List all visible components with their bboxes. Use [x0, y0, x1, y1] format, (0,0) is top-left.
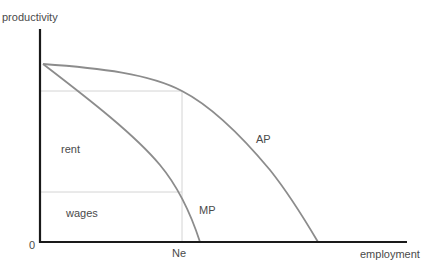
ap-curve-label: AP [256, 133, 271, 145]
y-axis-label: productivity [2, 11, 58, 23]
ne-label: Ne [172, 247, 186, 259]
productivity-diagram: productivity employment 0 Ne AP MP rent … [0, 0, 435, 269]
rent-region-label: rent [61, 143, 80, 155]
mp-curve-label: MP [199, 204, 216, 216]
wages-region-label: wages [65, 207, 98, 219]
x-axis-label: employment [360, 248, 420, 260]
origin-label: 0 [29, 239, 35, 251]
